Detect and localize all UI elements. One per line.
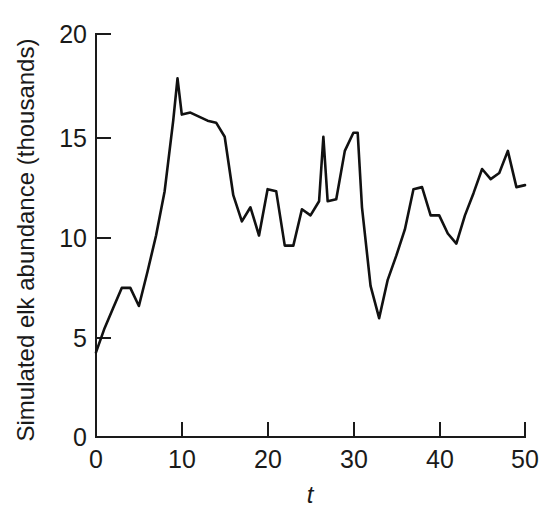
x-tick-label-10: 10 <box>168 445 196 473</box>
x-tick-label-30: 30 <box>340 445 368 473</box>
x-tick-label-0: 0 <box>89 445 103 473</box>
y-axis-label: Simulated elk abundance (thousands) <box>12 39 39 442</box>
x-axis-label: t <box>307 481 315 508</box>
x-axis-ticks <box>96 422 525 437</box>
y-tick-label-10: 10 <box>59 224 87 252</box>
y-axis-ticks <box>96 34 111 338</box>
x-tick-label-50: 50 <box>511 445 539 473</box>
line-chart-plot: 20 15 10 5 0 0 10 20 30 40 50 t Simulate… <box>0 0 557 518</box>
y-tick-label-15: 15 <box>59 124 87 152</box>
data-series-line <box>96 78 525 352</box>
x-tick-labels: 0 10 20 30 40 50 <box>89 445 539 473</box>
chart-figure: 20 15 10 5 0 0 10 20 30 40 50 t Simulate… <box>0 0 557 518</box>
x-tick-label-20: 20 <box>254 445 282 473</box>
y-tick-label-0: 0 <box>73 423 87 451</box>
y-tick-labels: 20 15 10 5 0 <box>59 20 87 451</box>
y-tick-label-20: 20 <box>59 20 87 48</box>
y-tick-label-5: 5 <box>73 324 87 352</box>
x-tick-label-40: 40 <box>426 445 454 473</box>
